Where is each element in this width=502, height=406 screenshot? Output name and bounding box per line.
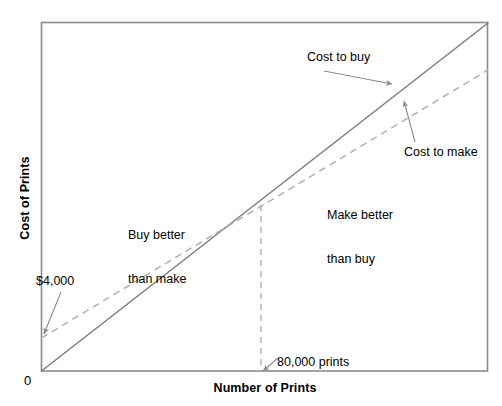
buy-better-line-1: Buy better: [128, 228, 186, 243]
y-axis-title: Cost of Prints: [18, 118, 33, 278]
chart-canvas: [0, 0, 502, 406]
breakeven-chart: Cost of Prints Number of Prints 0 Cost t…: [0, 0, 502, 406]
buy-better-region-label: Buy better than make: [128, 198, 186, 316]
cost-to-buy-label: Cost to buy: [307, 50, 370, 65]
cost-to-make-label: Cost to make: [404, 145, 478, 160]
fixed-cost-leader: [44, 292, 61, 334]
buy-better-line-2: than make: [128, 272, 186, 287]
breakeven-leader: [263, 358, 278, 371]
make-better-line-1: Make better: [327, 208, 393, 223]
origin-tick-label: 0: [24, 373, 31, 388]
cost-to-buy-line: [42, 23, 489, 371]
fixed-cost-label: $4,000: [36, 274, 74, 289]
cost-to-make-leader: [404, 101, 415, 142]
cost-to-make-line: [42, 70, 489, 338]
cost-to-buy-leader: [324, 71, 392, 84]
make-better-region-label: Make better than buy: [327, 178, 393, 296]
x-axis-title: Number of Prints: [185, 381, 345, 396]
breakeven-label: 80,000 prints: [277, 355, 349, 370]
make-better-line-2: than buy: [327, 252, 393, 267]
